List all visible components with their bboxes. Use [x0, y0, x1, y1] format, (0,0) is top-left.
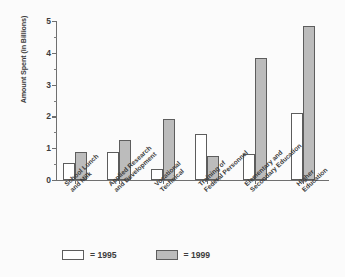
bar-group [63, 21, 87, 180]
bar-chart: Amount Spent (in Billions) 012345 School… [0, 0, 345, 277]
y-axis-title: Amount Spent (in Billions) [19, 5, 28, 115]
legend-label: = 1999 [184, 251, 211, 260]
x-axis-category-labels: School Lunchand MilkApplied Researchand … [57, 182, 337, 244]
y-tick-mark [52, 180, 57, 181]
y-tick-label: 3 [46, 80, 51, 89]
y-tick-label: 2 [46, 112, 51, 121]
bar-group [195, 21, 219, 180]
y-tick-label: 5 [46, 17, 51, 26]
legend-item-1999: = 1999 [156, 250, 211, 260]
bar-1999 [303, 26, 315, 180]
chart-legend: = 1995= 1999 [62, 250, 210, 260]
bar-group [107, 21, 131, 180]
legend-swatch [156, 250, 178, 260]
legend-item-1995: = 1995 [62, 250, 117, 260]
y-tick-label: 1 [46, 144, 51, 153]
y-tick-label: 0 [46, 176, 51, 185]
legend-swatch [62, 250, 84, 260]
y-tick-label: 4 [46, 49, 51, 58]
legend-label: = 1995 [90, 251, 117, 260]
